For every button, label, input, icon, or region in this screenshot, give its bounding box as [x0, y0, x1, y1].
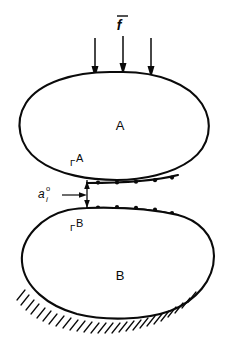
- interface-b-symbol: Γ: [70, 222, 75, 233]
- force-label-group: f: [117, 16, 128, 33]
- gap-leader-arrow-icon: [79, 192, 87, 198]
- gap-label-superscript: o: [46, 184, 50, 193]
- contact-node: [153, 178, 157, 182]
- gap-label-subscript: i: [46, 195, 48, 204]
- contact-node: [170, 176, 174, 180]
- gap-arrow-down-icon: [84, 200, 90, 208]
- load-arrow-2: [120, 36, 127, 75]
- contact-mechanics-figure: f A Γ A: [0, 0, 236, 350]
- interface-b-superscript: B: [76, 217, 83, 229]
- diagram-canvas: f A Γ A: [0, 0, 236, 350]
- body-b-outline: [22, 208, 214, 319]
- interface-a-superscript: A: [76, 152, 84, 164]
- body-a-outline: [20, 72, 209, 180]
- contact-node: [96, 181, 100, 185]
- force-label: f: [117, 17, 123, 33]
- contact-node: [115, 180, 119, 184]
- gap-dimension-group: a o i: [38, 180, 90, 209]
- body-a-label: A: [116, 118, 125, 133]
- contact-node: [134, 180, 138, 184]
- body-b-label: B: [116, 268, 125, 283]
- gap-label-base: a: [38, 187, 45, 201]
- load-arrow-3: [148, 38, 155, 78]
- interface-a-symbol: Γ: [70, 157, 75, 168]
